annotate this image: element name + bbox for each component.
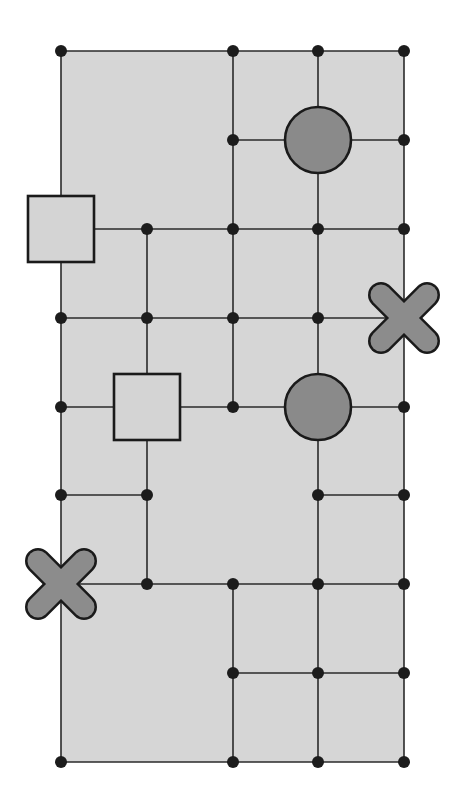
- grid-node: [398, 223, 410, 235]
- grid-node: [227, 578, 239, 590]
- puzzle-stage: [0, 0, 473, 806]
- grid-node: [398, 45, 410, 57]
- grid-node: [312, 756, 324, 768]
- grid-node: [227, 45, 239, 57]
- grid-node: [141, 223, 153, 235]
- grid-node: [141, 578, 153, 590]
- grid-node: [227, 401, 239, 413]
- grid-node: [312, 45, 324, 57]
- puzzle-board: [0, 0, 473, 806]
- circle-symbol-1-icon: [285, 107, 351, 173]
- grid-node: [312, 578, 324, 590]
- grid-node: [55, 401, 67, 413]
- grid-node: [398, 401, 410, 413]
- square-symbol-1-icon: [28, 196, 94, 262]
- grid-node: [141, 312, 153, 324]
- circle-symbol-2-icon: [285, 374, 351, 440]
- grid-node: [141, 489, 153, 501]
- grid-node: [312, 489, 324, 501]
- grid-node: [398, 667, 410, 679]
- grid-node: [312, 312, 324, 324]
- grid-node: [55, 756, 67, 768]
- grid-node: [227, 134, 239, 146]
- grid-node: [398, 578, 410, 590]
- grid-node: [55, 45, 67, 57]
- grid-node: [227, 667, 239, 679]
- cross-symbol-2-icon: [38, 561, 84, 607]
- grid-node: [227, 223, 239, 235]
- grid-node: [398, 489, 410, 501]
- cross-symbol-1-icon: [381, 295, 427, 341]
- grid-node: [398, 134, 410, 146]
- grid-node: [227, 756, 239, 768]
- grid-node: [398, 756, 410, 768]
- grid-node: [312, 223, 324, 235]
- square-symbol-2-icon: [114, 374, 180, 440]
- grid-node: [312, 667, 324, 679]
- grid-node: [55, 312, 67, 324]
- grid-node: [55, 489, 67, 501]
- grid-node: [227, 312, 239, 324]
